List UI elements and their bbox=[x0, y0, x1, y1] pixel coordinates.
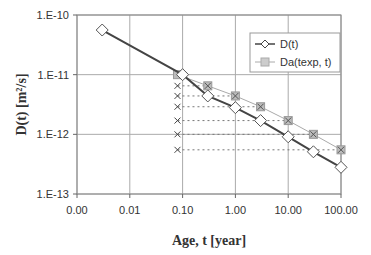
square-marker-icon bbox=[231, 92, 239, 100]
x-marker-icon bbox=[174, 147, 180, 153]
legend-square-icon bbox=[261, 58, 269, 66]
legend: D(t)Da(texp, t) bbox=[250, 33, 340, 72]
chart-canvas: 0.000.010.101.0010.00100.00 1.E-101.E-11… bbox=[0, 0, 371, 255]
x-marker-icon bbox=[174, 118, 180, 124]
square-marker-icon bbox=[337, 146, 345, 154]
y-axis-title: D(t) [m²/s] bbox=[14, 73, 30, 135]
diamond-marker-icon bbox=[255, 115, 267, 127]
diamond-marker-icon bbox=[96, 24, 108, 36]
x-tick-label: 1.00 bbox=[225, 204, 246, 216]
x-marker-icon bbox=[174, 104, 180, 110]
y-tick-label: 1.E-13 bbox=[37, 188, 69, 200]
y-tick-label: 1.E-10 bbox=[37, 9, 69, 21]
x-tick-label: 0.01 bbox=[119, 204, 140, 216]
square-marker-icon bbox=[309, 130, 317, 138]
x-marker-icon bbox=[174, 93, 180, 99]
diamond-marker-icon bbox=[282, 131, 294, 143]
x-tick-label: 100.00 bbox=[324, 204, 358, 216]
x-tick-label: 10.00 bbox=[274, 204, 302, 216]
diamond-marker-icon bbox=[335, 161, 347, 173]
square-marker-icon bbox=[284, 117, 292, 125]
x-axis-ticks: 0.000.010.101.0010.00100.00 bbox=[66, 194, 358, 216]
x-marker-icon bbox=[174, 83, 180, 89]
x-tick-label: 0.00 bbox=[66, 204, 87, 216]
square-marker-icon bbox=[257, 103, 265, 111]
y-tick-label: 1.E-12 bbox=[37, 128, 69, 140]
diamond-marker-icon bbox=[229, 102, 241, 114]
diamond-marker-icon bbox=[307, 146, 319, 158]
y-tick-label: 1.E-11 bbox=[37, 69, 69, 81]
square-marker-icon bbox=[204, 82, 212, 90]
x-tick-label: 0.10 bbox=[172, 204, 193, 216]
legend-label-da: Da(texp, t) bbox=[280, 56, 331, 68]
legend-label-d: D(t) bbox=[280, 38, 298, 50]
x-axis-title: Age, t [year] bbox=[172, 233, 246, 248]
y-axis-ticks: 1.E-101.E-111.E-121.E-13 bbox=[37, 9, 77, 200]
